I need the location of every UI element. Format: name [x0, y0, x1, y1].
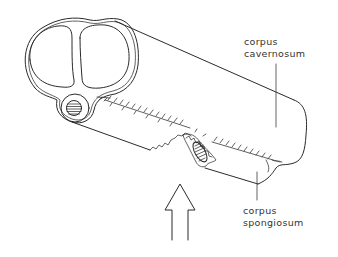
label-spongiosum-line1: corpus: [243, 205, 304, 217]
fracture-site: [183, 134, 216, 167]
label-cavernosum-line2: cavernosum: [244, 48, 305, 60]
label-spongiosum-line2: spongiosum: [243, 217, 304, 229]
urethra-hatched: [67, 101, 82, 116]
label-cavernosum-line1: corpus: [244, 36, 305, 48]
cross-section: [25, 18, 138, 123]
right-cavernosum-lumen: [80, 25, 129, 88]
left-cavernosum-lumen: [30, 26, 74, 87]
label-corpus-spongiosum: corpus spongiosum: [243, 205, 304, 229]
label-corpus-cavernosum: corpus cavernosum: [244, 36, 305, 60]
fracture-edge: [150, 133, 191, 150]
spongiosum-ring: [61, 94, 89, 122]
anatomy-diagram: corpus cavernosum corpus spongiosum: [0, 0, 338, 257]
force-arrow-icon: [165, 184, 195, 240]
